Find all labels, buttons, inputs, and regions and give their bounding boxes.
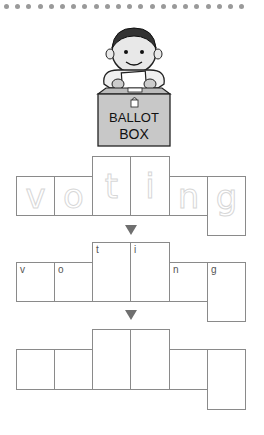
trace-letter: o [55, 177, 92, 215]
guide-box-1[interactable]: v [16, 262, 55, 302]
guide-letter: v [20, 264, 25, 276]
down-arrow-icon [125, 310, 137, 320]
trace-box-5[interactable]: n [169, 176, 208, 216]
trace-box-1[interactable]: v [16, 176, 55, 216]
letter-box-grid: v o t i n g v o t i n g [0, 0, 264, 435]
trace-letter: t [93, 157, 130, 215]
guide-letter: g [211, 264, 217, 276]
blank-box-4[interactable] [130, 329, 170, 390]
guide-box-2[interactable]: o [54, 262, 93, 302]
trace-letter: v [17, 177, 54, 215]
guide-box-3[interactable]: t [92, 242, 131, 302]
guide-letter: t [96, 244, 99, 256]
trace-letter: i [131, 157, 169, 215]
trace-box-6[interactable]: g [207, 176, 246, 236]
blank-box-3[interactable] [92, 329, 131, 390]
guide-letter: o [58, 264, 64, 276]
blank-box-1[interactable] [16, 349, 55, 390]
guide-box-6[interactable]: g [207, 262, 246, 322]
trace-letter: n [170, 177, 207, 215]
guide-box-5[interactable]: n [169, 262, 208, 302]
blank-box-5[interactable] [169, 349, 208, 390]
trace-letter: g [208, 177, 245, 217]
trace-box-3[interactable]: t [92, 156, 131, 216]
guide-box-4[interactable]: i [130, 242, 170, 302]
down-arrow-icon [125, 225, 137, 235]
blank-box-6[interactable] [207, 349, 246, 410]
trace-box-2[interactable]: o [54, 176, 93, 216]
blank-box-2[interactable] [54, 349, 93, 390]
guide-letter: i [134, 244, 136, 256]
guide-letter: n [173, 264, 179, 276]
trace-box-4[interactable]: i [130, 156, 170, 216]
